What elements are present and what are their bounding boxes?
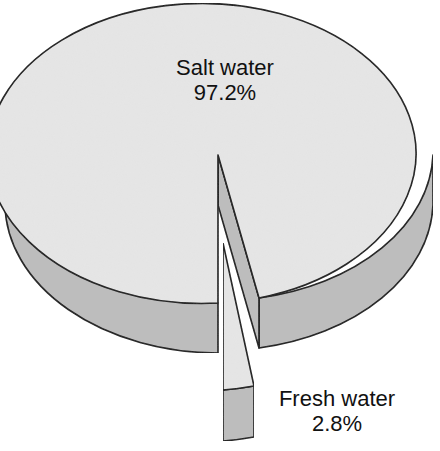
fresh-water-name: Fresh water <box>262 386 412 411</box>
fresh-water-value: 2.8% <box>262 411 412 436</box>
salt-water-value: 97.2% <box>150 80 300 105</box>
salt-water-top-face <box>0 3 416 303</box>
salt-water-label: Salt water 97.2% <box>150 55 300 105</box>
fresh-water-label: Fresh water 2.8% <box>262 386 412 436</box>
fresh-water-rim <box>223 386 254 441</box>
salt-water-name: Salt water <box>150 55 300 80</box>
